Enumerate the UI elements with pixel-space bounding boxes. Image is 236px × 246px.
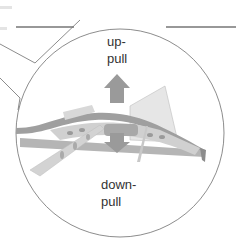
magnified-detail-diagram: up- pull down- pull: [0, 0, 236, 246]
up-pull-label: up- pull: [107, 33, 127, 67]
up-pull-label-line1: up-: [107, 33, 127, 50]
down-pull-label: down- pull: [101, 176, 136, 210]
callout-pointer-lower: [0, 78, 20, 110]
faint-mark: [0, 6, 12, 9]
down-pull-label-line1: down-: [101, 176, 136, 193]
faint-mark: [0, 27, 7, 30]
up-pull-label-line2: pull: [107, 50, 127, 67]
down-pull-label-line2: pull: [101, 193, 136, 210]
